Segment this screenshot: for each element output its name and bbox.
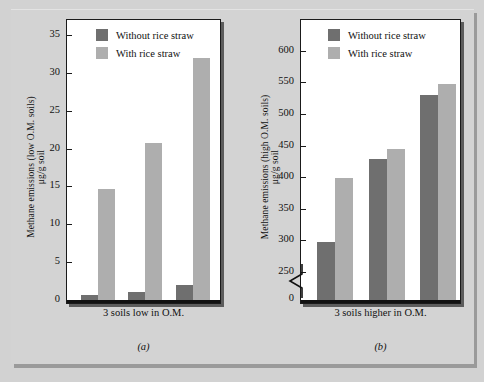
panel-a-tick-label: 25 xyxy=(30,104,60,115)
panel-a-bar xyxy=(81,295,98,300)
panel-b-bar xyxy=(438,84,456,300)
panel-b-tick-label: 300 xyxy=(262,233,294,244)
panel-b-tick-label: 500 xyxy=(262,107,294,118)
panel-a: Methane emissions (low O.M. soils) μg/g … xyxy=(0,0,242,382)
panel-a-tick-label: 35 xyxy=(30,28,60,39)
panel-b-tick-label: 450 xyxy=(262,139,294,150)
panel-b-bar xyxy=(387,149,405,300)
panel-a-y-axis-title: Methane emissions (low O.M. soils) μg/g … xyxy=(26,62,46,272)
panel-b-bar xyxy=(420,95,438,300)
panel-b-baseline xyxy=(301,300,460,303)
figure-container: Methane emissions (low O.M. soils) μg/g … xyxy=(0,0,484,382)
panel-a-bar xyxy=(145,143,162,300)
panel-a-tick-label: 30 xyxy=(30,66,60,77)
panel-a-caption: (a) xyxy=(66,341,221,352)
panel-b-bar xyxy=(317,242,335,300)
panel-b-tick-label: 600 xyxy=(262,44,294,55)
panel-b-caption: (b) xyxy=(300,341,461,352)
panel-b-x-axis-label: 3 soils higher in O.M. xyxy=(300,307,461,318)
panel-a-bar xyxy=(176,285,193,300)
panel-a-tick-label: 5 xyxy=(30,255,60,266)
panel-b-tick-label: 350 xyxy=(262,202,294,213)
panel-b-bar xyxy=(335,178,353,300)
panel-a-baseline xyxy=(67,300,220,303)
panel-a-tick-label: 15 xyxy=(30,179,60,190)
panel-a-tick-label: 20 xyxy=(30,142,60,153)
panel-a-plot-area xyxy=(67,20,220,303)
panel-b-plot-area xyxy=(301,20,460,303)
panel-a-x-axis-label: 3 soils low in O.M. xyxy=(66,307,221,318)
panel-a-tick-label: 0 xyxy=(30,293,60,304)
panel-b-tick-label: 400 xyxy=(262,170,294,181)
panel-a-y-axis-title-line1: Methane emissions (low O.M. soils) xyxy=(26,62,36,272)
panel-a-bar xyxy=(193,58,210,300)
panel-a-tick-label: 10 xyxy=(30,217,60,228)
panel-a-y-axis-title-line2: μg/g soil xyxy=(36,62,46,272)
panel-a-bar xyxy=(128,292,145,300)
panel-b: Methane emissions (high O.M. soils) μg/g… xyxy=(242,0,484,382)
panel-a-bar xyxy=(98,189,115,300)
panel-b-bar xyxy=(369,159,387,300)
panel-b-tick-label: 550 xyxy=(262,75,294,86)
